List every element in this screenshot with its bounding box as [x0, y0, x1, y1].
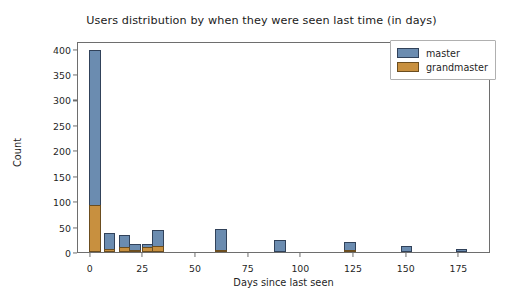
chart-legend: mastergrandmaster — [390, 40, 496, 80]
y-axis-label: Count — [12, 108, 23, 198]
x-axis-label: Days since last seen — [77, 277, 490, 288]
histogram-bar — [456, 249, 468, 252]
legend-swatch-icon — [397, 62, 419, 72]
y-tick-label: 300 — [53, 95, 71, 106]
x-tick-label: 25 — [136, 263, 148, 274]
histogram-bar — [401, 246, 413, 252]
x-tick-mark — [194, 253, 195, 257]
x-tick-label: 100 — [291, 263, 309, 274]
y-tick-label: 100 — [53, 197, 71, 208]
x-tick-mark — [352, 253, 353, 257]
legend-item-master[interactable]: master — [397, 46, 488, 60]
histogram-bar — [215, 229, 227, 252]
x-tick-mark — [458, 253, 459, 257]
x-tick-label: 75 — [242, 263, 254, 274]
histogram-bar — [152, 246, 164, 252]
x-tick-label: 150 — [397, 263, 415, 274]
y-tick-label: 0 — [65, 248, 71, 259]
histogram-bar — [274, 240, 286, 252]
legend-label: grandmaster — [426, 62, 488, 73]
legend-item-grandmaster[interactable]: grandmaster — [397, 60, 488, 74]
x-tick-mark — [247, 253, 248, 257]
histogram-bar — [104, 249, 116, 252]
y-tick-label: 350 — [53, 70, 71, 81]
y-tick-label: 50 — [59, 222, 71, 233]
x-tick-label: 0 — [87, 263, 93, 274]
x-tick-label: 175 — [449, 263, 467, 274]
x-tick-mark — [89, 253, 90, 257]
legend-swatch-icon — [397, 48, 419, 58]
y-tick-label: 250 — [53, 120, 71, 131]
chart-title: Users distribution by when they were see… — [0, 14, 523, 27]
x-tick-mark — [300, 253, 301, 257]
x-tick-label: 125 — [344, 263, 362, 274]
y-tick-label: 200 — [53, 146, 71, 157]
histogram-bar — [215, 250, 227, 252]
y-tick-label: 150 — [53, 171, 71, 182]
histogram-bar — [89, 205, 101, 252]
histogram-bar — [344, 250, 356, 252]
y-tick-label: 400 — [53, 44, 71, 55]
histogram-figure: Users distribution by when they were see… — [0, 0, 523, 300]
x-tick-mark — [142, 253, 143, 257]
histogram-bar — [129, 250, 141, 252]
x-tick-label: 50 — [189, 263, 201, 274]
legend-label: master — [426, 48, 460, 59]
x-tick-mark — [405, 253, 406, 257]
